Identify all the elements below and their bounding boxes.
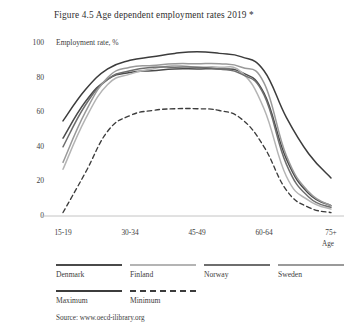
source-note: Source: www.oecd-ilibrary.org bbox=[56, 314, 145, 322]
figure-container: Figure 4.5 Age dependent employment rate… bbox=[0, 0, 354, 332]
legend-line-glyph bbox=[130, 290, 196, 292]
legend-swatch-denmark bbox=[56, 262, 122, 268]
legend-item-minimum[interactable]: Minimum bbox=[130, 288, 218, 305]
legend-item-sweden[interactable]: Sweden bbox=[278, 262, 354, 279]
legend-swatch-minimum bbox=[130, 288, 196, 294]
series-line-maximum bbox=[63, 52, 331, 178]
legend-swatch-norway bbox=[204, 262, 270, 268]
legend-line-glyph bbox=[278, 264, 344, 266]
legend-line-glyph bbox=[204, 264, 270, 266]
chart-plot-area bbox=[0, 0, 354, 260]
legend-swatch-maximum bbox=[56, 288, 122, 294]
legend-label: Minimum bbox=[130, 296, 218, 305]
legend-line-glyph bbox=[130, 264, 196, 266]
chart-legend: DenmarkFinlandNorwaySwedenMaximumMinimum bbox=[0, 262, 354, 312]
legend-swatch-finland bbox=[130, 262, 196, 268]
legend-label: Sweden bbox=[278, 270, 354, 279]
legend-line-glyph bbox=[56, 290, 122, 292]
chart-series-layer bbox=[63, 52, 331, 213]
legend-swatch-sweden bbox=[278, 262, 344, 268]
legend-line-glyph bbox=[56, 264, 122, 266]
